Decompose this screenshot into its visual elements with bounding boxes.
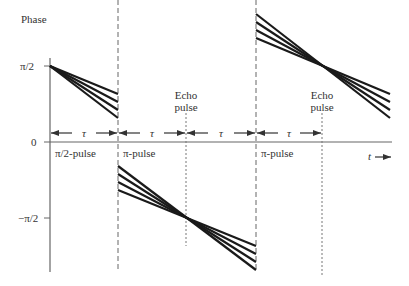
tau-interval-1: τ [51,127,117,139]
pi-half-pulse-label: π/2-pulse [55,147,96,159]
pi-pulse-label-1: π-pulse [123,147,156,159]
tick-label-pi-half: π/2 [20,60,34,72]
spin-echo-diagram: Phase π/2 0 −π/2 t Echo pulse Echo pulse… [0,0,409,286]
svg-text:τ: τ [219,127,224,139]
tau-interval-4: τ [257,127,321,139]
svg-text:τ: τ [82,127,87,139]
tick-label-minus-pi-half: −π/2 [18,212,38,224]
svg-text:τ: τ [287,127,292,139]
refocus-lines-1 [118,166,256,270]
time-axis-label: t [368,150,372,162]
pi-pulse-label-2: π-pulse [261,147,294,159]
echo-label-2-line2: pulse [310,101,333,113]
phase-axis-label: Phase [21,13,47,25]
tick-label-zero: 0 [31,136,37,148]
echo-label-1-line1: Echo [175,89,198,101]
dephase-lines-1 [50,66,118,118]
echo-label-1-line2: pulse [174,101,197,113]
svg-text:τ: τ [150,127,155,139]
echo-label-2-line1: Echo [311,89,334,101]
tau-interval-2: τ [119,127,185,139]
tau-interval-3: τ [187,127,255,139]
